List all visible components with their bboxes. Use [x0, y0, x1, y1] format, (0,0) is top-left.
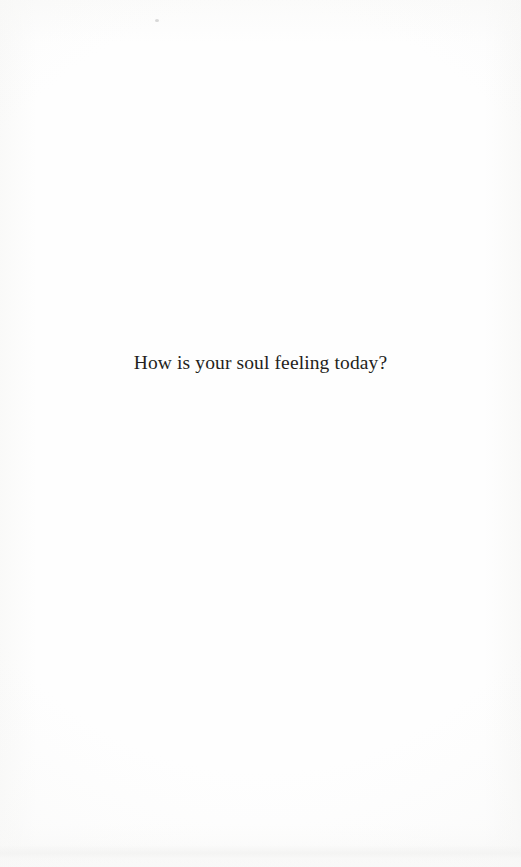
scan-speck-artifact: [155, 19, 159, 22]
scanned-page: How is your soul feeling today?: [0, 0, 521, 867]
scan-band-artifact: [0, 845, 521, 863]
paper-texture: [0, 0, 521, 867]
body-text-line: How is your soul feeling today?: [134, 352, 387, 374]
page-body-text: How is your soul feeling today?: [0, 352, 521, 374]
